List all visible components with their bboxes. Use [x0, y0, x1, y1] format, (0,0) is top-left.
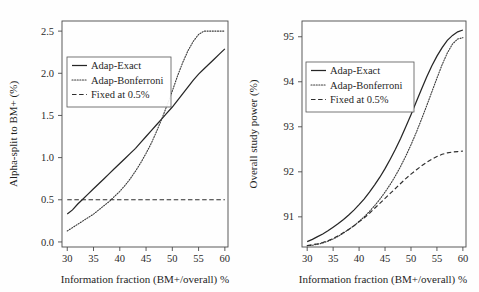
- y-tick-label-left-5: 2.5: [41, 26, 54, 37]
- y-tick-label-right-4: 95: [284, 31, 295, 42]
- figure-container: 303540455055600.00.51.01.52.02.5 Adap-Ex…: [0, 0, 479, 292]
- legend-label-right-1: Adap-Bonferroni: [330, 80, 402, 91]
- y-tick-label-left-1: 0.5: [41, 194, 54, 205]
- chart-svg-left: 303540455055600.00.51.01.52.02.5 Adap-Ex…: [0, 0, 240, 292]
- x-tick-label-left-0: 30: [62, 253, 73, 264]
- x-tick-label-left-6: 60: [220, 253, 231, 264]
- x-tick-label-left-2: 40: [115, 253, 126, 264]
- legend-label-right-0: Adap-Exact: [330, 65, 380, 76]
- x-tick-label-right-0: 30: [302, 253, 313, 264]
- y-tick-label-right-3: 94: [284, 76, 295, 87]
- y-tick-label-right-1: 92: [284, 166, 295, 177]
- plot-frame-left: [62, 21, 228, 247]
- chart-svg-right: 303540455055609192939495 Adap-ExactAdap-…: [240, 0, 479, 292]
- chart-panel-left: 303540455055600.00.51.01.52.02.5 Adap-Ex…: [0, 0, 240, 292]
- series-line-right-2: [307, 151, 463, 246]
- y-tick-label-left-2: 1.0: [41, 152, 54, 163]
- x-tick-label-right-4: 50: [406, 253, 417, 264]
- x-tick-label-left-3: 45: [141, 253, 152, 264]
- x-axis-title-left: Information fraction (BM+/overall) %: [61, 273, 229, 286]
- x-tick-label-left-4: 50: [167, 253, 178, 264]
- legend-label-left-2: Fixed at 0.5%: [91, 89, 150, 100]
- legend-label-left-1: Adap-Bonferroni: [91, 75, 163, 86]
- x-tick-label-left-1: 35: [88, 253, 99, 264]
- y-tick-label-left-0: 0.0: [41, 237, 54, 248]
- plot-frame-right: [302, 21, 466, 247]
- legend-label-right-2: Fixed at 0.5%: [330, 94, 389, 105]
- y-tick-label-left-3: 1.5: [41, 110, 54, 121]
- x-tick-label-right-3: 45: [380, 253, 391, 264]
- x-tick-label-right-6: 60: [458, 253, 469, 264]
- x-tick-label-right-5: 55: [432, 253, 443, 264]
- y-tick-label-right-2: 93: [284, 121, 295, 132]
- x-tick-label-left-5: 55: [193, 253, 204, 264]
- y-axis-title-right: Overall study power (%): [247, 79, 260, 188]
- legend-label-left-0: Adap-Exact: [91, 60, 141, 71]
- y-tick-label-left-4: 2.0: [41, 68, 54, 79]
- x-axis-title-right: Information fraction (BM+/overall) %: [299, 273, 467, 286]
- y-tick-label-right-0: 91: [284, 211, 295, 222]
- x-tick-label-right-2: 40: [354, 253, 365, 264]
- x-tick-label-right-1: 35: [328, 253, 339, 264]
- y-axis-title-left: Alpha-split to BM+ (%): [7, 81, 20, 187]
- chart-panel-right: 303540455055609192939495 Adap-ExactAdap-…: [240, 0, 479, 292]
